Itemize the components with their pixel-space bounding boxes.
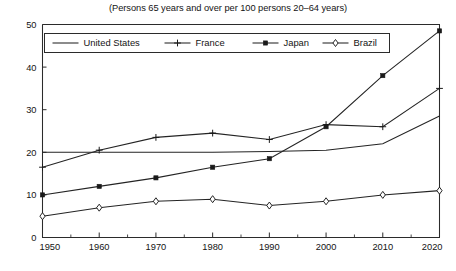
legend-label: United States <box>84 37 141 48</box>
data-point-1980 <box>210 196 215 203</box>
y-tick-label-40: 40 <box>26 63 36 73</box>
legend-label: Brazil <box>354 37 377 48</box>
x-tick-label-1990: 1990 <box>259 242 280 252</box>
legend-label: Japan <box>284 37 310 48</box>
data-point-2020 <box>437 187 442 194</box>
data-point-1980 <box>209 130 216 137</box>
series-line <box>43 31 440 195</box>
chart-figure: (Persons 65 years and over per 100 perso… <box>0 0 456 271</box>
x-tick-label-1970: 1970 <box>146 242 167 252</box>
data-point-1980 <box>211 165 215 169</box>
y-tick-label-30: 30 <box>26 105 36 115</box>
y-tick-label-10: 10 <box>26 190 36 200</box>
x-axis-tick-labels: 19501960197019801990200020102020 <box>40 242 443 252</box>
y-tick-label-0: 0 <box>31 233 36 243</box>
data-point-1960 <box>97 204 102 211</box>
tick-marks-group <box>43 25 440 238</box>
data-point-1950 <box>40 193 44 197</box>
chart-subtitle: (Persons 65 years and over per 100 perso… <box>0 3 456 13</box>
series-japan <box>40 29 441 197</box>
x-tick-label-1960: 1960 <box>89 242 110 252</box>
legend-marker <box>263 41 267 45</box>
data-point-2000 <box>323 198 328 205</box>
data-point-2010 <box>379 123 386 130</box>
data-point-2010 <box>380 191 385 198</box>
plot-frame <box>43 25 440 238</box>
series-line <box>43 116 440 152</box>
data-point-1970 <box>154 176 158 180</box>
data-point-1950 <box>39 164 46 171</box>
series-united-states <box>43 116 440 152</box>
legend-label: France <box>196 37 225 48</box>
data-point-1970 <box>153 198 158 205</box>
line-chart-svg: 19501960197019801990200020102020 0102030… <box>0 0 456 271</box>
x-tick-label-1980: 1980 <box>202 242 223 252</box>
data-point-2020 <box>437 29 441 33</box>
y-axis-tick-labels: 01020304050 <box>26 20 36 243</box>
chart-legend: United StatesFranceJapanBrazil <box>45 34 390 53</box>
data-point-1990 <box>266 136 273 143</box>
x-tick-label-2010: 2010 <box>372 242 393 252</box>
series-line <box>43 88 440 167</box>
x-tick-label-2000: 2000 <box>316 242 337 252</box>
series-france <box>39 85 443 171</box>
y-tick-label-50: 50 <box>26 20 36 30</box>
axis-group <box>43 25 440 238</box>
x-tick-label-2020: 2020 <box>422 242 443 252</box>
data-point-2000 <box>324 125 328 129</box>
x-tick-label-1950: 1950 <box>40 242 61 252</box>
y-tick-label-20: 20 <box>26 148 36 158</box>
data-point-1990 <box>267 157 271 161</box>
data-point-1960 <box>97 184 101 188</box>
series-brazil <box>40 187 442 220</box>
data-point-1950 <box>40 213 45 220</box>
data-point-1990 <box>267 202 272 209</box>
data-point-1970 <box>153 134 160 141</box>
data-point-2020 <box>436 85 443 92</box>
data-point-2010 <box>381 74 385 78</box>
data-series-group <box>39 29 443 220</box>
